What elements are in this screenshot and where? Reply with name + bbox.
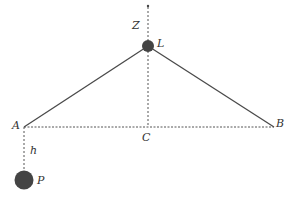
label-B: B — [275, 117, 284, 130]
node-P — [15, 171, 34, 190]
pendulum-geometry-diagram: Z L A B C h P — [0, 0, 293, 199]
label-h: h — [30, 144, 37, 157]
label-A: A — [11, 119, 20, 132]
segment-LA — [24, 46, 148, 127]
node-L — [142, 40, 154, 52]
label-L: L — [156, 37, 164, 50]
label-Z: Z — [131, 19, 140, 32]
top-point-dot — [147, 5, 149, 7]
label-P: P — [36, 174, 45, 187]
label-C: C — [142, 131, 151, 144]
segment-LB — [148, 46, 274, 127]
